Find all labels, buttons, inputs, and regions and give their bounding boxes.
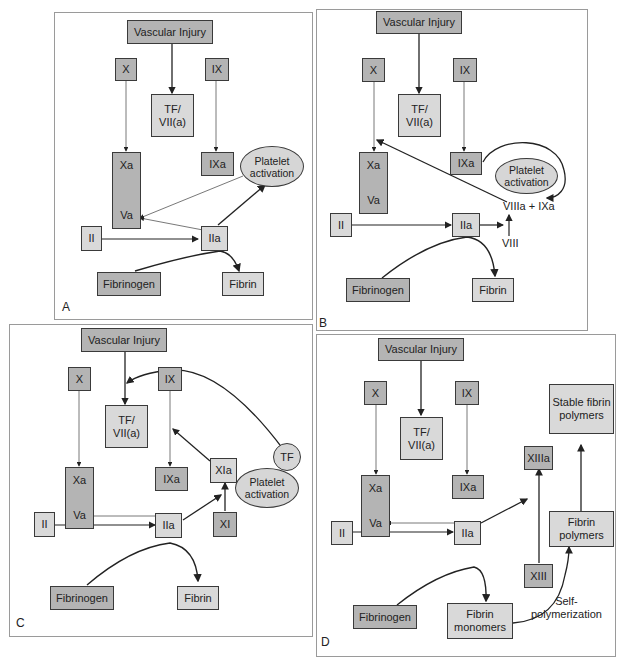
factor-ii-label: II	[338, 219, 344, 232]
panel-label-b: B	[319, 316, 327, 330]
tf-vii-box: TF/ VII(a)	[151, 94, 194, 137]
fibrinogen-label: Fibrinogen	[103, 278, 155, 291]
factor-ii-label: II	[88, 232, 94, 245]
panel-label-d: D	[321, 635, 330, 649]
iia-label: IIa	[460, 219, 472, 232]
fibrin-box: Fibrin	[177, 586, 219, 610]
factor-ix-box: IX	[453, 58, 477, 82]
ixa-label: IXa	[458, 157, 475, 170]
xa-va-complex-box: Xa Va	[65, 467, 94, 529]
panel-a: Vascular Injury X IX TF/ VII(a) Xa Va IX…	[54, 12, 313, 320]
ixa-box: IXa	[452, 475, 484, 499]
iia-box: IIa	[452, 213, 480, 237]
iia-label: IIa	[461, 527, 473, 540]
factor-x-label: X	[370, 64, 377, 77]
factor-ii-label: II	[339, 527, 345, 540]
factor-x-label: X	[76, 373, 83, 386]
factor-xiii-box: XIII	[524, 564, 553, 588]
fibrinogen-box: Fibrinogen	[353, 605, 417, 629]
iia-box: IIa	[155, 513, 182, 538]
vascular-injury-label: Vascular Injury	[134, 26, 206, 39]
tf-vii-label: TF/ VII(a)	[408, 426, 435, 452]
vascular-injury-label: Vascular Injury	[385, 343, 457, 356]
xa-label: Xa	[367, 159, 380, 172]
factor-viii: VIII	[502, 237, 519, 249]
platelet-activation-label: Platelet activation	[496, 164, 557, 188]
ixa-box: IXa	[201, 152, 234, 176]
xa-label: Xa	[73, 474, 86, 487]
tf-vii-label: TF/ VII(a)	[159, 103, 186, 129]
panel-label-c: C	[16, 616, 25, 630]
vascular-injury-box: Vascular Injury	[81, 328, 167, 352]
fibrin-box: Fibrin	[222, 272, 264, 296]
tf-vii-label: TF/ VII(a)	[406, 103, 433, 129]
xa-va-complex-box: Xa Va	[112, 152, 141, 229]
factor-ix-box: IX	[455, 381, 479, 405]
tf-label: TF	[280, 451, 293, 464]
fibrin-monomers-label: Fibrin monomers	[448, 608, 512, 634]
xa-label: Xa	[120, 159, 133, 172]
va-label: Va	[120, 209, 133, 222]
stable-fibrin-polymers-label: Stable fibrin polymers	[550, 396, 613, 422]
iia-label: IIa	[208, 232, 220, 245]
fibrinogen-label: Fibrinogen	[352, 284, 404, 297]
factor-xi-label: XI	[220, 518, 230, 531]
panel-b: Vascular Injury X IX TF/ VII(a) Xa Va IX…	[316, 9, 588, 331]
factor-xi-box: XI	[213, 512, 237, 537]
vascular-injury-box: Vascular Injury	[378, 338, 464, 361]
fibrinogen-box: Fibrinogen	[97, 272, 161, 296]
vascular-injury-label: Vascular Injury	[383, 16, 455, 29]
xa-label: Xa	[369, 482, 382, 495]
ixa-label: IXa	[460, 481, 477, 494]
factor-x-box: X	[364, 381, 387, 405]
vascular-injury-box: Vascular Injury	[376, 11, 462, 34]
factor-ix-label: IX	[462, 387, 472, 400]
vascular-injury-box: Vascular Injury	[127, 20, 213, 44]
fibrin-box: Fibrin	[472, 278, 514, 302]
factor-x-label: X	[122, 63, 129, 76]
xiiia-label: XIIIa	[527, 452, 550, 465]
factor-x-box: X	[362, 58, 385, 82]
va-label: Va	[367, 194, 380, 207]
va-label: Va	[369, 517, 382, 530]
ixa-label: IXa	[209, 158, 226, 171]
iia-label: IIa	[162, 519, 174, 532]
xa-va-complex-box: Xa Va	[359, 152, 388, 214]
factor-xiii-label: XIII	[530, 570, 547, 583]
fibrinogen-label: Fibrinogen	[56, 592, 108, 605]
fibrinogen-label: Fibrinogen	[359, 611, 411, 624]
factor-x-box: X	[68, 367, 91, 391]
va-label: Va	[73, 509, 86, 522]
panel-d: Vascular Injury X IX TF/ VII(a) Xa Va IX…	[316, 334, 616, 657]
fibrinogen-box: Fibrinogen	[346, 278, 410, 302]
platelet-activation-label: Platelet activation	[236, 476, 298, 500]
tf-vii-box: TF/ VII(a)	[400, 417, 443, 460]
panel-c: Vascular Injury X IX TF/ VII(a) Xa Va IX…	[9, 324, 313, 637]
iia-box: IIa	[201, 226, 228, 251]
ixa-label: IXa	[163, 473, 180, 486]
tf-circle: TF	[273, 443, 301, 471]
vascular-injury-label: Vascular Injury	[88, 334, 160, 347]
fibrin-polymers-box: Fibrin polymers	[549, 511, 614, 547]
fibrin-monomers-box: Fibrin monomers	[447, 603, 513, 639]
xiiia-box: XIIIa	[524, 446, 553, 470]
stable-fibrin-polymers-box: Stable fibrin polymers	[549, 384, 614, 434]
factor-ix-label: IX	[165, 373, 175, 386]
fibrinogen-box: Fibrinogen	[50, 586, 114, 610]
factor-ix-box: IX	[205, 58, 229, 81]
factor-ii-label: II	[41, 518, 47, 531]
xa-va-complex-box: Xa Va	[361, 475, 390, 537]
fibrin-polymers-label: Fibrin polymers	[550, 516, 613, 542]
factor-ii-box: II	[81, 226, 102, 251]
factor-ii-box: II	[330, 213, 352, 237]
tf-vii-label: TF/ VII(a)	[113, 414, 140, 440]
platelet-activation-label: Platelet activation	[241, 155, 303, 179]
panel-label-a: A	[62, 300, 70, 314]
factor-x-label: X	[372, 387, 379, 400]
factor-ix-label: IX	[212, 63, 222, 76]
platelet-activation-ellipse: Platelet activation	[495, 158, 558, 194]
platelet-activation-ellipse: Platelet activation	[240, 146, 304, 187]
fibrin-label: Fibrin	[479, 284, 507, 297]
factor-ix-box: IX	[158, 367, 182, 391]
xia-box: XIa	[210, 458, 237, 483]
